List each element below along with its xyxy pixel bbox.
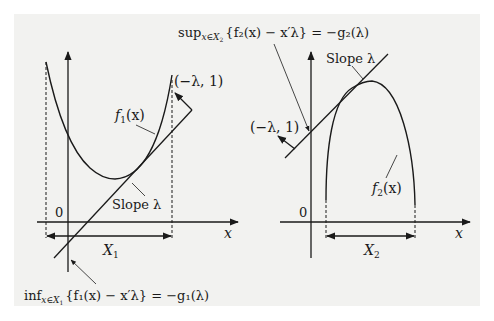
inf-subscript: x∈X [41,295,60,305]
inf-body: {f₁(x) − x′λ} = −g₁(λ) [65,288,209,303]
x1-sub: 1 [113,250,119,260]
left-x-axis-label: x [224,225,232,241]
sup-op: sup [178,25,201,40]
sup-equation: supx∈X2{f₂(x) − x′λ} = −g₂(λ) [178,25,369,43]
inf-op: inf [24,288,43,303]
right-normal-vector [278,136,295,149]
x2-sub: 2 [374,250,380,260]
left-origin-label: 0 [55,205,63,220]
right-normal-vector-label: (−λ, 1) [250,119,299,135]
right-domain-label: X2 [363,242,380,260]
left-normal-vector [175,93,192,110]
inf-subscript-sub: 1 [60,299,64,306]
conjugate-duality-diagram: 0 x f1(x) (−λ, 1) Slope λ X1 infx∈X1{f₁(… [0,0,494,321]
f2-label: f2(x) [371,180,402,198]
left-slope-label: Slope λ [112,197,161,212]
sup-leader [274,44,309,131]
sup-body: {f₂(x) − x′λ} = −g₂(λ) [225,25,369,40]
f1-curve [46,62,172,179]
right-origin-label: 0 [299,205,307,220]
right-tangent-line [285,54,388,158]
inf-leader [71,260,96,284]
f1-label-leader [136,125,155,134]
left-normal-vector-label: (−λ, 1) [174,73,223,89]
right-panel: 0 x f2(x) (−λ, 1) Slope λ X2 supx∈X2{f₂(… [178,25,470,260]
inf-equation: infx∈X1{f₁(x) − x′λ} = −g₁(λ) [24,288,209,306]
f1-label: f1(x) [114,107,145,125]
left-domain-label: X1 [102,242,119,260]
right-slope-leader [352,66,363,79]
sup-subscript: x∈X [201,32,220,42]
right-slope-label: Slope λ [326,51,375,66]
left-panel: 0 x f1(x) (−λ, 1) Slope λ X1 infx∈X1{f₁(… [24,52,238,306]
f1-arg: (x) [126,107,145,123]
left-slope-leader [132,183,145,196]
f2-arg: (x) [383,180,402,196]
right-x-axis-label: x [455,225,463,241]
sup-subscript-sub: 2 [220,36,224,43]
f2-label-leader [386,155,397,178]
